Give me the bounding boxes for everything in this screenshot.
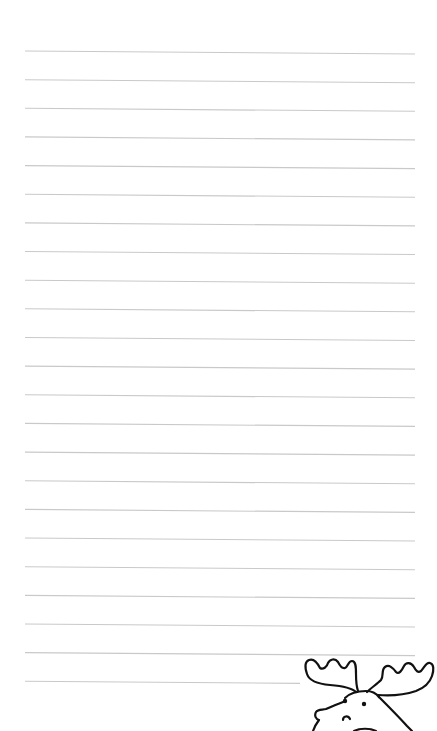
ruled-line — [25, 595, 415, 598]
ruled-line — [25, 452, 415, 455]
ruled-line — [25, 395, 415, 398]
notepaper-page — [0, 0, 437, 731]
ruled-line — [25, 653, 415, 656]
ruled-line — [25, 538, 415, 541]
ruled-line — [25, 137, 415, 140]
ruled-line — [25, 481, 415, 484]
ruled-line — [25, 108, 415, 111]
ruled-line — [25, 51, 415, 54]
ruled-line — [25, 567, 415, 570]
ruled-line — [25, 309, 415, 312]
ruled-line — [25, 624, 415, 627]
ruled-line — [25, 423, 415, 426]
ruled-line — [25, 280, 415, 283]
ruled-line — [25, 509, 415, 512]
ruled-line — [25, 166, 415, 169]
ruled-line — [25, 194, 415, 197]
ruled-line — [25, 366, 415, 369]
ruled-line — [25, 80, 415, 83]
ruled-line — [25, 252, 415, 255]
ruled-line — [25, 681, 300, 683]
ruled-line — [25, 338, 415, 341]
ruled-lines — [0, 0, 437, 731]
ruled-line — [25, 223, 415, 226]
